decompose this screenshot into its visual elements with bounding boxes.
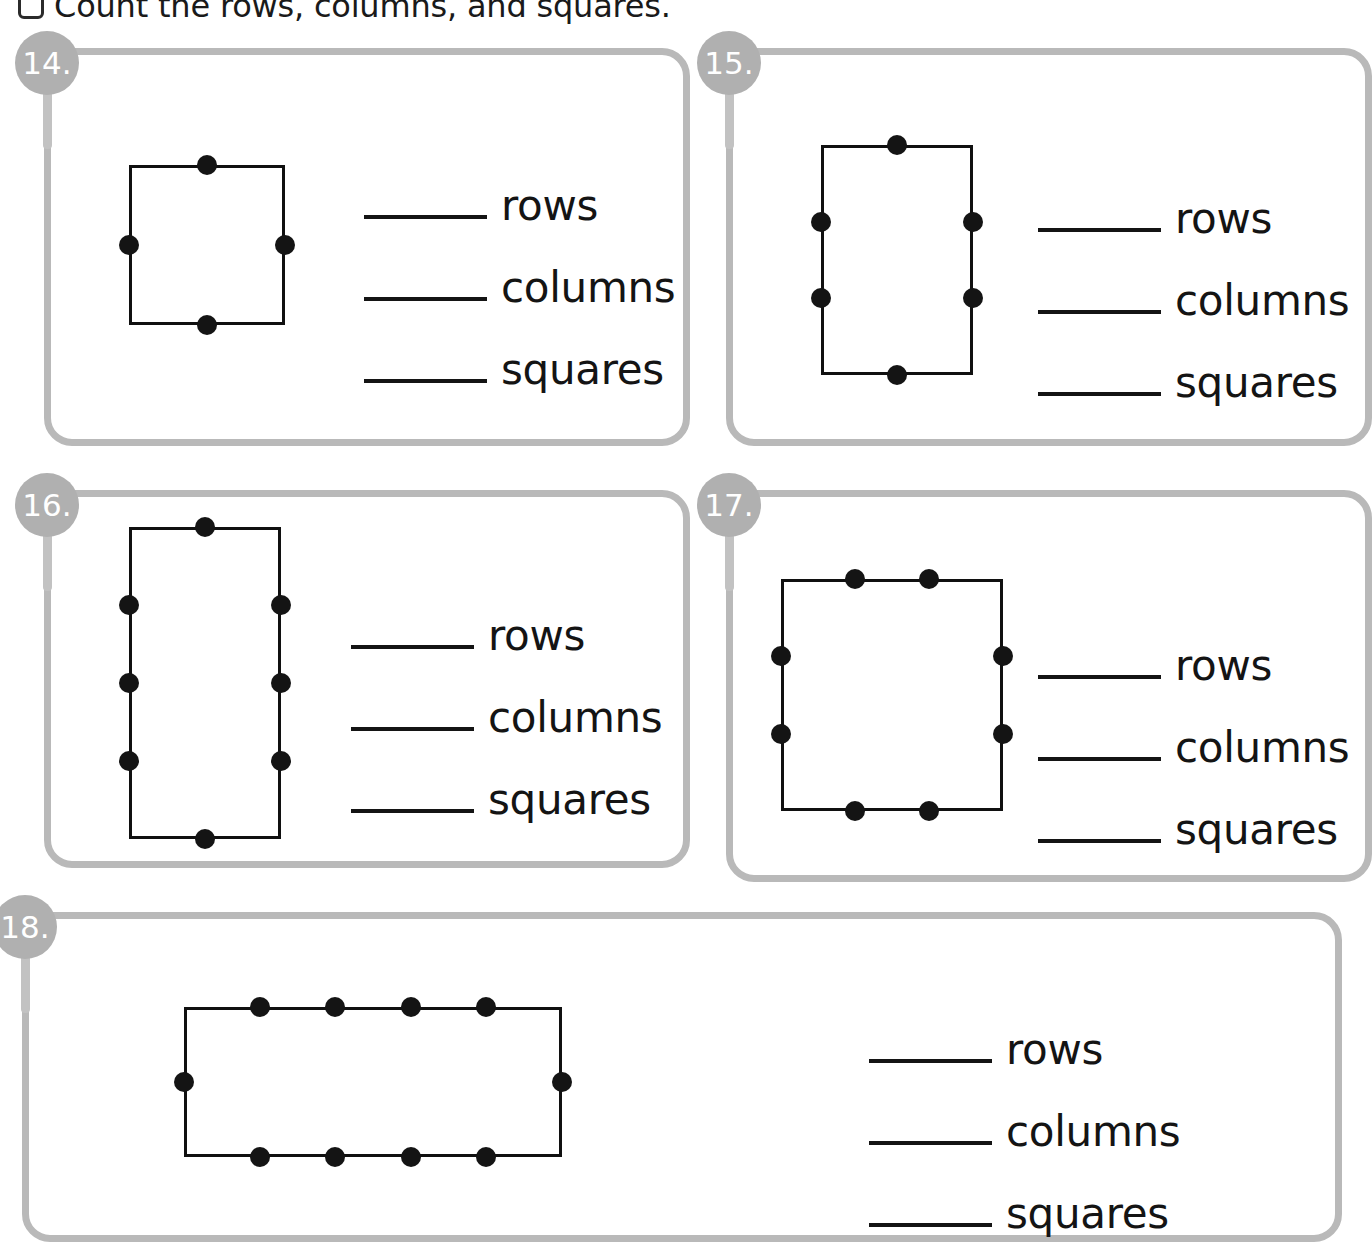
figure-dot xyxy=(476,1147,496,1167)
problem-number-badge-18: 18. xyxy=(0,895,57,959)
figure-dot xyxy=(845,569,865,589)
answer-blank-squares[interactable] xyxy=(1038,362,1161,396)
answer-blank-columns[interactable] xyxy=(364,267,487,301)
figure-15 xyxy=(821,145,973,375)
answer-row-columns: columns xyxy=(1038,232,1349,314)
figure-dot xyxy=(476,997,496,1017)
answer-blank-columns[interactable] xyxy=(1038,280,1161,314)
checkbox-icon[interactable] xyxy=(18,0,44,19)
answers-18: rows columns squares xyxy=(869,981,1180,1227)
answer-row-rows: rows xyxy=(1038,597,1349,679)
answer-row-rows: rows xyxy=(1038,150,1349,232)
figure-dot xyxy=(771,646,791,666)
answers-15: rows columns squares xyxy=(1038,150,1349,396)
figure-dot xyxy=(271,673,291,693)
answer-label-rows: rows xyxy=(501,185,598,227)
figure-outline-15 xyxy=(821,145,973,375)
answer-label-columns: columns xyxy=(501,267,675,309)
figure-dot xyxy=(771,724,791,744)
answer-blank-squares[interactable] xyxy=(869,1193,992,1227)
answer-row-columns: columns xyxy=(351,649,662,731)
figure-dot xyxy=(250,1147,270,1167)
figure-dot xyxy=(325,1147,345,1167)
figure-dot xyxy=(174,1072,194,1092)
answer-label-squares: squares xyxy=(501,349,664,391)
answer-blank-rows[interactable] xyxy=(869,1029,992,1063)
figure-dot xyxy=(119,595,139,615)
badge-tail-18 xyxy=(21,955,30,1013)
answer-label-rows: rows xyxy=(488,615,585,657)
figure-dot xyxy=(401,997,421,1017)
answer-blank-squares[interactable] xyxy=(364,349,487,383)
badge-tail-15 xyxy=(725,91,734,149)
answer-label-columns: columns xyxy=(1175,280,1349,322)
figure-dot xyxy=(401,1147,421,1167)
figure-17 xyxy=(781,579,1003,811)
answer-blank-rows[interactable] xyxy=(351,615,474,649)
figure-outline-18 xyxy=(184,1007,562,1157)
answer-blank-rows[interactable] xyxy=(1038,645,1161,679)
figure-dot xyxy=(197,315,217,335)
answers-16: rows columns squares xyxy=(351,567,662,813)
answer-row-columns: columns xyxy=(364,219,675,301)
answer-blank-columns[interactable] xyxy=(869,1111,992,1145)
figure-dot xyxy=(197,155,217,175)
answer-label-squares: squares xyxy=(488,779,651,821)
problem-number-badge-16: 16. xyxy=(15,473,79,537)
directive-line: Count the rows, columns, and squares. xyxy=(18,0,671,24)
figure-dot xyxy=(250,997,270,1017)
answer-label-squares: squares xyxy=(1175,362,1338,404)
figure-outline-16 xyxy=(129,527,281,839)
figure-14 xyxy=(129,165,285,325)
figure-dot xyxy=(963,212,983,232)
problem-card-15: 15. rows columns squares xyxy=(726,48,1372,446)
figure-dot xyxy=(887,365,907,385)
answer-blank-columns[interactable] xyxy=(351,697,474,731)
answer-label-columns: columns xyxy=(488,697,662,739)
answer-row-rows: rows xyxy=(364,137,675,219)
figure-dot xyxy=(119,235,139,255)
figure-dot xyxy=(845,801,865,821)
answers-14: rows columns squares xyxy=(364,137,675,383)
figure-dot xyxy=(119,751,139,771)
answer-label-squares: squares xyxy=(1006,1193,1169,1235)
figure-dot xyxy=(552,1072,572,1092)
figure-16 xyxy=(129,527,281,839)
answer-blank-squares[interactable] xyxy=(351,779,474,813)
answer-label-rows: rows xyxy=(1175,645,1272,687)
answer-blank-columns[interactable] xyxy=(1038,727,1161,761)
problem-number-badge-15: 15. xyxy=(697,31,761,95)
answer-blank-squares[interactable] xyxy=(1038,809,1161,843)
badge-tail-14 xyxy=(43,91,52,149)
figure-dot xyxy=(275,235,295,255)
answer-row-squares: squares xyxy=(1038,314,1349,396)
answer-label-rows: rows xyxy=(1006,1029,1103,1071)
answer-row-squares: squares xyxy=(1038,761,1349,843)
figure-dot xyxy=(811,212,831,232)
badge-tail-17 xyxy=(725,533,734,591)
answer-blank-rows[interactable] xyxy=(364,185,487,219)
figure-dot xyxy=(887,135,907,155)
answer-row-squares: squares xyxy=(869,1145,1180,1227)
figure-dot xyxy=(325,997,345,1017)
figure-dot xyxy=(919,801,939,821)
problem-card-16: 16. rows columns squares xyxy=(44,490,690,868)
problem-card-18: 18. rows columns squares xyxy=(22,912,1342,1242)
figure-dot xyxy=(271,751,291,771)
figure-dot xyxy=(195,517,215,537)
answer-row-squares: squares xyxy=(351,731,662,813)
problem-card-14: 14. rows columns squares xyxy=(44,48,690,446)
answer-label-rows: rows xyxy=(1175,198,1272,240)
figure-dot xyxy=(271,595,291,615)
answer-blank-rows[interactable] xyxy=(1038,198,1161,232)
answer-row-rows: rows xyxy=(869,981,1180,1063)
answer-row-rows: rows xyxy=(351,567,662,649)
figure-dot xyxy=(919,569,939,589)
figure-dot xyxy=(811,288,831,308)
figure-dot xyxy=(993,724,1013,744)
figure-dot xyxy=(195,829,215,849)
answer-label-squares: squares xyxy=(1175,809,1338,851)
problem-card-17: 17. rows columns squares xyxy=(726,490,1372,882)
problem-number-badge-17: 17. xyxy=(697,473,761,537)
answer-label-columns: columns xyxy=(1006,1111,1180,1153)
